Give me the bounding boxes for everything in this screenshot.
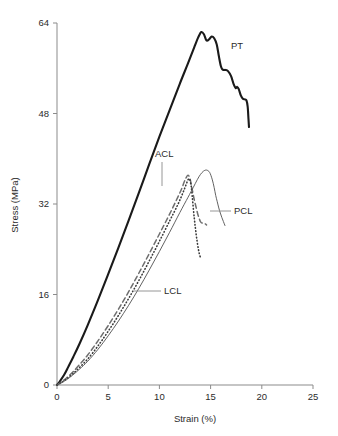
series-label-lcl: LCL — [164, 285, 181, 296]
y-axis: 016324864 — [38, 17, 57, 390]
y-tick-label: 16 — [38, 289, 49, 300]
y-axis-ticks: 016324864 — [38, 17, 57, 390]
x-axis-ticks: 0510152025 — [54, 385, 318, 402]
series-curve-acl — [57, 175, 207, 385]
y-tick-label: 48 — [38, 108, 49, 119]
series-curve-lcl — [57, 179, 200, 385]
y-tick-label: 0 — [44, 379, 49, 390]
series-layer — [57, 32, 249, 385]
series-label-acl: ACL — [155, 148, 173, 159]
y-tick-label: 64 — [38, 17, 49, 28]
x-tick-label: 25 — [308, 391, 319, 402]
chart-canvas: 016324864 0510152025 PTACLPCLLCL Strain … — [0, 0, 338, 436]
x-axis-title: Strain (%) — [174, 413, 216, 424]
x-tick-label: 15 — [205, 391, 216, 402]
x-tick-label: 0 — [54, 391, 59, 402]
series-label-pcl: PCL — [234, 205, 252, 216]
series-curve-pt — [57, 32, 249, 385]
x-axis: 0510152025 — [54, 385, 318, 402]
stress-strain-chart: 016324864 0510152025 PTACLPCLLCL Strain … — [0, 0, 338, 436]
x-tick-label: 20 — [257, 391, 268, 402]
y-axis-title: Stress (MPa) — [9, 177, 20, 232]
x-tick-label: 5 — [106, 391, 111, 402]
y-tick-label: 32 — [38, 198, 49, 209]
series-label-pt: PT — [231, 40, 243, 51]
x-tick-label: 10 — [154, 391, 165, 402]
